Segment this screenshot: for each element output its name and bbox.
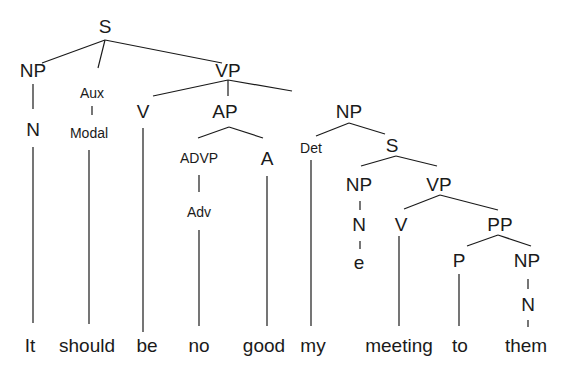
word-It: It: [25, 336, 36, 355]
word-should: should: [59, 336, 115, 355]
node-ap: AP: [212, 102, 237, 121]
node-adv: Adv: [187, 205, 211, 219]
node-np4: NP: [514, 251, 540, 270]
node-modal: Modal: [70, 126, 108, 140]
node-advp: ADVP: [180, 151, 218, 165]
tree-edge: [198, 127, 229, 138]
tree-edge: [396, 156, 437, 166]
node-aux: Aux: [80, 86, 104, 100]
syntax-tree-diagram: SNPAuxVPNModalVAPNPADVPADetSAdvNPVPNVPPe…: [0, 0, 572, 374]
word-no: no: [188, 336, 209, 355]
tree-edge: [229, 127, 263, 138]
node-v2: V: [395, 215, 408, 234]
tree-edge: [498, 235, 531, 246]
tree-edge: [42, 40, 105, 63]
tree-edge: [440, 195, 498, 210]
node-n2: N: [352, 215, 366, 234]
node-n1: N: [26, 120, 40, 139]
node-a: A: [261, 149, 274, 168]
node-s2: S: [386, 136, 399, 155]
node-n3: N: [521, 295, 535, 314]
word-good: good: [243, 336, 285, 355]
node-s: S: [99, 17, 112, 36]
tree-edge: [404, 195, 440, 209]
node-np3: NP: [346, 175, 372, 194]
tree-edge: [349, 123, 385, 134]
tree-edge: [467, 235, 498, 246]
node-np1: NP: [20, 61, 46, 80]
word-them: them: [505, 336, 547, 355]
word-meeting: meeting: [365, 336, 433, 355]
tree-edge: [153, 80, 228, 96]
node-p: P: [453, 251, 466, 270]
node-e: e: [354, 253, 365, 272]
tree-edge: [98, 40, 105, 68]
tree-edges: [0, 0, 572, 374]
word-be: be: [136, 336, 157, 355]
tree-edge: [361, 156, 396, 166]
tree-edge: [316, 123, 349, 136]
node-pp: PP: [487, 215, 512, 234]
tree-edge: [228, 80, 292, 91]
node-vp2: VP: [426, 175, 451, 194]
tree-edge: [105, 40, 222, 63]
node-vp1: VP: [215, 61, 240, 80]
word-to: to: [452, 336, 468, 355]
node-np2: NP: [336, 102, 362, 121]
node-det: Det: [300, 141, 322, 155]
word-my: my: [300, 336, 325, 355]
node-v1: V: [137, 102, 150, 121]
